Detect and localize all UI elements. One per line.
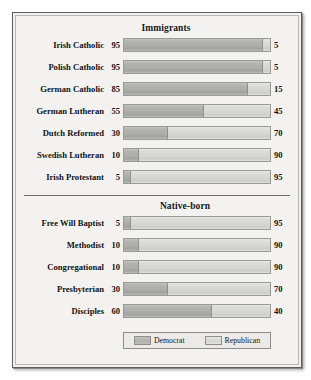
legend-item-republican: Republican	[205, 336, 261, 345]
bar-row-republican-value: 45	[274, 106, 283, 117]
bar-row-label: Free Will Baptist	[16, 218, 104, 229]
chart-plot-area: Immigrants Irish Catholic955Polish Catho…	[15, 15, 299, 365]
bar-row-label: Irish Catholic	[16, 40, 104, 51]
bar-segment-democrat	[124, 83, 248, 95]
bar-rows-immigrants: Irish Catholic955Polish Catholic955Germa…	[16, 35, 298, 189]
bar-row-republican-value: 15	[274, 84, 283, 95]
bar-row-republican-value: 5	[274, 40, 278, 51]
bar-row-label: Methodist	[16, 240, 104, 251]
bar-row-democrat-value: 5	[106, 218, 120, 229]
bar-segment-democrat	[124, 127, 168, 139]
bar-track	[123, 304, 271, 318]
bar-track	[123, 260, 271, 274]
bar-track	[123, 170, 271, 184]
bar-track	[123, 82, 271, 96]
bar-row-republican-value: 95	[274, 172, 283, 183]
legend-swatch-republican-icon	[205, 336, 222, 345]
bar-segment-democrat	[124, 171, 131, 183]
bar-row: Swedish Lutheran1090	[16, 145, 298, 167]
bar-row: Congregational1090	[16, 257, 298, 279]
bar-row-label: German Lutheran	[16, 106, 104, 117]
bar-row-republican-value: 70	[274, 284, 283, 295]
bar-segment-democrat	[124, 149, 139, 161]
legend: Democrat Republican	[123, 332, 271, 349]
bar-row-democrat-value: 85	[106, 84, 120, 95]
bar-row-republican-value: 70	[274, 128, 283, 139]
bar-row-democrat-value: 60	[106, 306, 120, 317]
panel-title-native-born: Native-born	[16, 200, 298, 213]
bar-row-republican-value: 5	[274, 62, 278, 73]
bar-row: Polish Catholic955	[16, 57, 298, 79]
panel-native-born: Native-born Free Will Baptist595Methodis…	[16, 200, 298, 323]
bar-row-democrat-value: 30	[106, 284, 120, 295]
bar-row: German Lutheran5545	[16, 101, 298, 123]
panel-immigrants: Immigrants Irish Catholic955Polish Catho…	[16, 22, 298, 189]
bar-row-republican-value: 90	[274, 262, 283, 273]
bar-row: Free Will Baptist595	[16, 213, 298, 235]
legend-item-democrat: Democrat	[134, 336, 185, 345]
bar-segment-democrat	[124, 239, 139, 251]
bar-row-label: Swedish Lutheran	[16, 150, 104, 161]
bar-row-democrat-value: 10	[106, 262, 120, 273]
bar-track	[123, 126, 271, 140]
bar-row: Presbyterian3070	[16, 279, 298, 301]
bar-row-democrat-value: 10	[106, 240, 120, 251]
bar-row: Irish Catholic955	[16, 35, 298, 57]
bar-row-label: Polish Catholic	[16, 62, 104, 73]
legend-swatch-democrat-icon	[134, 336, 151, 345]
bar-segment-democrat	[124, 105, 204, 117]
bar-track	[123, 38, 271, 52]
bar-segment-democrat	[124, 39, 263, 51]
bar-row-label: Presbyterian	[16, 284, 104, 295]
bar-row-democrat-value: 55	[106, 106, 120, 117]
bar-row-republican-value: 90	[274, 240, 283, 251]
bar-segment-democrat	[124, 261, 139, 273]
chart-figure: Immigrants Irish Catholic955Polish Catho…	[12, 12, 302, 368]
panel-title-immigrants: Immigrants	[16, 22, 298, 35]
bar-row: Disciples6040	[16, 301, 298, 323]
bar-track	[123, 216, 271, 230]
bar-track	[123, 148, 271, 162]
bar-row: Dutch Reformed3070	[16, 123, 298, 145]
bar-row-label: Congregational	[16, 262, 104, 273]
bar-track	[123, 282, 271, 296]
bar-row-label: Dutch Reformed	[16, 128, 104, 139]
legend-label-republican: Republican	[225, 336, 261, 345]
panel-divider	[24, 195, 290, 196]
bar-rows-native-born: Free Will Baptist595Methodist1090Congreg…	[16, 213, 298, 323]
bar-segment-democrat	[124, 61, 263, 73]
bar-row-label: German Catholic	[16, 84, 104, 95]
bar-row-democrat-value: 30	[106, 128, 120, 139]
bar-row-republican-value: 95	[274, 218, 283, 229]
bar-row: German Catholic8515	[16, 79, 298, 101]
bar-row-republican-value: 90	[274, 150, 283, 161]
bar-track	[123, 60, 271, 74]
bar-row: Irish Protestant595	[16, 167, 298, 189]
bar-segment-democrat	[124, 305, 212, 317]
bar-segment-democrat	[124, 283, 168, 295]
bar-row-democrat-value: 95	[106, 62, 120, 73]
bar-row: Methodist1090	[16, 235, 298, 257]
bar-track	[123, 104, 271, 118]
bar-row-label: Irish Protestant	[16, 172, 104, 183]
legend-box: Democrat Republican	[123, 332, 271, 349]
bar-row-democrat-value: 5	[106, 172, 120, 183]
bar-row-label: Disciples	[16, 306, 104, 317]
bar-row-republican-value: 40	[274, 306, 283, 317]
legend-label-democrat: Democrat	[154, 336, 185, 345]
bar-track	[123, 238, 271, 252]
bar-row-democrat-value: 10	[106, 150, 120, 161]
bar-row-democrat-value: 95	[106, 40, 120, 51]
bar-segment-democrat	[124, 217, 131, 229]
